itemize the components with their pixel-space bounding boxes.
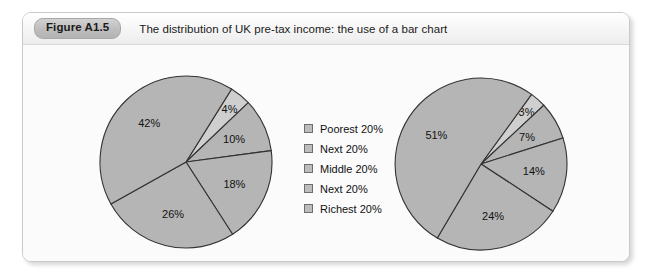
figure-header: Figure A1.5 The distribution of UK pre-t… [23, 13, 629, 45]
pie-slice-label: 42% [138, 117, 160, 129]
legend-item-label: Next 20% [320, 143, 368, 155]
figure-caption: The distribution of UK pre-tax income: t… [139, 23, 447, 35]
pie-slice-label: 26% [162, 208, 184, 220]
legend-item: Middle 20% [304, 160, 408, 177]
legend-item: Next 20% [304, 180, 408, 197]
figure-panel: Figure A1.5 The distribution of UK pre-t… [22, 12, 630, 262]
legend-swatch-icon [304, 204, 313, 213]
legend-swatch-icon [304, 124, 313, 133]
pie-slice-label: 18% [223, 178, 245, 190]
legend-item: Next 20% [304, 140, 408, 157]
pie-slice-label: 7% [519, 131, 535, 143]
pie-slice-label: 24% [482, 210, 504, 222]
legend-item: Richest 20% [304, 200, 408, 217]
pie-chart-2012-13: 3%7%14%24%51%2012/13 [395, 78, 567, 262]
figure-number-badge: Figure A1.5 [34, 18, 121, 39]
legend-swatch-icon [304, 164, 313, 173]
legend-swatch-icon [304, 184, 313, 193]
pie-slice-label: 14% [523, 165, 545, 177]
pie-slice-label: 51% [425, 129, 447, 141]
chart-legend: Poorest 20% Next 20% Middle 20% Next 20%… [304, 120, 408, 220]
legend-item-label: Middle 20% [320, 163, 377, 175]
pie-slice-label: 10% [223, 133, 245, 145]
pie-slice-label: 4% [222, 103, 238, 115]
pie-year-label: 1977 [173, 260, 199, 262]
legend-item-label: Poorest 20% [320, 123, 383, 135]
legend-item: Poorest 20% [304, 120, 408, 137]
pie-chart-1977: 4%10%18%26%42%1977 [100, 76, 272, 262]
legend-swatch-icon [304, 144, 313, 153]
figure-chart-area: 4%10%18%26%42%1977 3%7%14%24%51%2012/13 … [23, 45, 629, 261]
legend-item-label: Richest 20% [320, 203, 382, 215]
legend-item-label: Next 20% [320, 183, 368, 195]
